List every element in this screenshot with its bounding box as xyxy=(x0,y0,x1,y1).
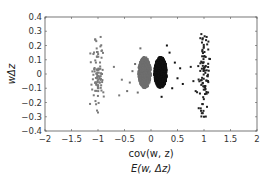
x-tick-label: 0.5 xyxy=(171,134,185,144)
x-tick-label: −1.5 xyxy=(61,134,82,144)
scatter-chart: −2−1.5−1−0.500.511.52 0.40.30.20.10−0.1−… xyxy=(0,0,271,185)
y-tick-label: 0.2 xyxy=(28,41,42,51)
y-tick-label: 0.4 xyxy=(28,12,42,22)
y-tick-label: −0.4 xyxy=(21,126,42,136)
y-tick-label: −0.3 xyxy=(21,112,42,122)
y-tick-label: 0.3 xyxy=(28,26,42,36)
y-tick-label: −0.1 xyxy=(21,83,42,93)
x-tick-label: 2 xyxy=(254,134,259,144)
x-axis-label: cov(w, z) xyxy=(128,148,173,159)
x-tick-label: −1 xyxy=(92,134,105,144)
x-tick-label: 1.5 xyxy=(224,134,238,144)
y-axis-label: wΔz xyxy=(6,63,17,84)
y-tick-label: 0.1 xyxy=(28,55,42,65)
x-tick-label: 0 xyxy=(148,134,153,144)
x-axis-label-secondary: E(w, Δz) xyxy=(131,163,171,174)
scatter-points xyxy=(89,33,211,118)
x-tick-label: −0.5 xyxy=(114,134,135,144)
y-tick-label: −0.2 xyxy=(21,98,42,108)
x-tick-label: 1 xyxy=(201,134,206,144)
y-tick-label: 0 xyxy=(37,69,42,79)
